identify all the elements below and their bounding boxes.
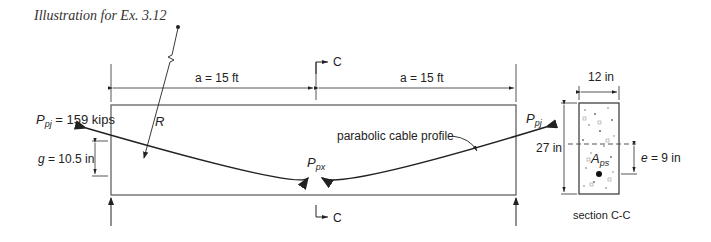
eccentricity-label: e = 9 in	[641, 151, 681, 165]
tendon-dot	[596, 171, 602, 177]
force-left-label: Ppj = 159 kips	[36, 112, 115, 129]
sag-label: g = 10.5 in	[38, 152, 94, 166]
cable-label: parabolic cable profile	[337, 129, 454, 143]
cross-section	[561, 86, 637, 194]
dim-right-label: a = 15 ft	[400, 71, 444, 85]
beam-diagram: a = 15 ft a = 15 ft C C R Ppx Ppj = 159 …	[0, 0, 711, 242]
span-dimension	[111, 62, 516, 102]
section-width-label: 12 in	[588, 70, 614, 84]
radius-line	[144, 28, 178, 158]
section-cut-marker	[316, 62, 328, 217]
cable-profile	[86, 128, 308, 180]
section-mark-top: C	[333, 55, 342, 69]
force-right-label: Ppj	[526, 111, 543, 128]
section-height-label: 27 in	[536, 141, 562, 155]
beam-outline	[111, 105, 516, 195]
dim-left-label: a = 15 ft	[195, 71, 239, 85]
section-mark-bottom: C	[333, 211, 342, 225]
force-mid-label: Ppx	[307, 155, 326, 172]
radius-label: R	[155, 114, 164, 129]
section-title: section C-C	[573, 209, 631, 221]
